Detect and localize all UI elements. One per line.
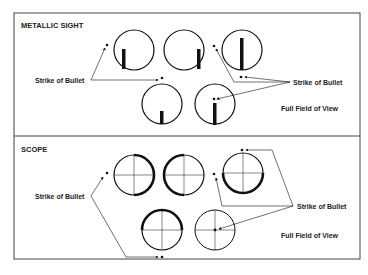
leader-line [91,48,105,80]
leader-line [216,178,293,206]
bullet-strike-dot [161,256,164,259]
scope-picture-shadow-top [142,210,182,250]
sight-picture-center [195,84,235,125]
bullet-strike-dot [240,76,243,79]
front-sight-post [240,38,244,70]
panel-title: SCOPE [21,145,47,154]
full-field-of-view-label: Full Field of View [281,232,339,239]
scope-picture-shadow-bottom [223,153,263,193]
bullet-strike-dot [106,44,109,47]
scope-picture-shadow-left [164,155,204,195]
leader-line [246,150,293,206]
bullet-strike-dot [214,229,217,232]
strike-of-bullet-label-left: Strike of Bullet [35,193,85,200]
leader-line [91,196,158,257]
front-sight-post [160,111,164,124]
scope-picture-shadow-right [114,155,154,195]
bullet-strike-dot [161,77,164,80]
metallic-sight-panel: METALLIC SIGHT [21,21,343,125]
sight-picture-low [142,84,182,124]
sight-picture-diagram: METALLIC SIGHT [0,0,368,275]
leader-line [216,49,290,82]
strike-of-bullet-label-left: Strike of Bullet [35,77,85,84]
scope-panel: SCOPE [21,145,347,258]
front-sight-post [213,103,217,125]
leader-line [245,77,290,82]
leader-line [217,82,290,99]
bullet-strike-dot [241,149,244,152]
full-field-of-view-label: Full Field of View [281,105,339,112]
front-sight-post [197,49,201,69]
leader-line [91,177,103,196]
bullet-strike-dot [213,45,216,48]
strike-of-bullet-label-right: Strike of Bullet [293,79,343,86]
bullet-strike-dot [213,98,216,101]
sight-picture-high [222,30,262,70]
bullet-strike-dot [213,173,216,176]
front-sight-post [122,49,126,69]
sight-picture-low-right [164,30,204,70]
sight-picture-low-left [114,30,154,70]
panel-title: METALLIC SIGHT [21,21,84,30]
bullet-strike-dot [106,172,109,175]
strike-of-bullet-label-right: Strike of Bullet [297,203,347,210]
